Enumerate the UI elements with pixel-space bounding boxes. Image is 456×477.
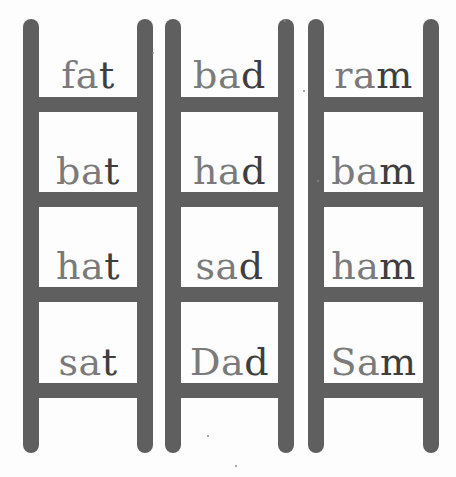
speckle xyxy=(317,180,319,182)
word-onset: Sa xyxy=(330,340,380,384)
ladder-rung xyxy=(315,192,430,207)
word-final: d xyxy=(244,340,269,384)
word-card: hat xyxy=(39,246,137,286)
ladder-rung xyxy=(172,287,285,302)
ladder-rung xyxy=(315,287,430,302)
word-final: m xyxy=(380,340,417,384)
word-card: bat xyxy=(39,151,137,191)
word-card: had xyxy=(181,151,278,191)
word-onset: sa xyxy=(196,244,239,288)
ladder-rung xyxy=(30,192,144,207)
word-final: m xyxy=(376,53,413,97)
word-card: ham xyxy=(324,246,423,286)
word-onset: Da xyxy=(190,340,244,384)
word-final: d xyxy=(239,244,264,288)
ladder-rung xyxy=(30,97,144,112)
ladder-rung xyxy=(172,192,285,207)
ladder-rung xyxy=(30,383,144,398)
word-onset: ba xyxy=(56,149,104,193)
word-onset: ra xyxy=(334,53,376,97)
ladder-rung xyxy=(315,97,430,112)
word-onset: ba xyxy=(193,53,241,97)
word-card: ram xyxy=(324,55,423,95)
ladder-rung xyxy=(172,383,285,398)
word-onset: ba xyxy=(331,149,379,193)
word-onset: ha xyxy=(193,149,241,193)
word-final: t xyxy=(99,53,115,97)
word-card: Sam xyxy=(324,342,423,382)
word-final: t xyxy=(102,340,118,384)
ladder-rung xyxy=(30,287,144,302)
speckle xyxy=(303,90,305,92)
word-card: Dad xyxy=(181,342,278,382)
speckle xyxy=(235,465,237,467)
word-final: m xyxy=(379,244,416,288)
speckle xyxy=(152,52,154,54)
word-final: m xyxy=(379,149,416,193)
word-onset: ha xyxy=(331,244,379,288)
word-final: t xyxy=(104,244,120,288)
ladder-rung xyxy=(172,97,285,112)
word-card: bad xyxy=(181,55,278,95)
word-onset: ha xyxy=(56,244,104,288)
word-onset: fa xyxy=(61,53,99,97)
word-final: d xyxy=(241,53,266,97)
word-final: d xyxy=(241,149,266,193)
word-card: sat xyxy=(39,342,137,382)
word-card: fat xyxy=(39,55,137,95)
ladder-rung xyxy=(315,383,430,398)
word-card: bam xyxy=(324,151,423,191)
word-onset: sa xyxy=(59,340,102,384)
speckle xyxy=(284,20,286,22)
speckle xyxy=(207,435,209,437)
word-card: sad xyxy=(181,246,278,286)
word-final: t xyxy=(104,149,120,193)
